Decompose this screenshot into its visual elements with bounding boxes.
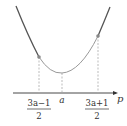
parabola-diagram: p 3a−1 2 a 3a+1 2 <box>0 0 127 126</box>
parabola-inner <box>39 36 98 73</box>
axis-label-p: p <box>117 93 124 104</box>
point-left <box>37 55 41 59</box>
point-right <box>96 34 100 38</box>
tick-left-denominator: 2 <box>36 111 41 121</box>
tick-right-denominator: 2 <box>94 111 99 121</box>
parabola-right-outer <box>98 7 110 36</box>
tick-left-numerator: 3a−1 <box>27 98 50 108</box>
tick-right-numerator: 3a+1 <box>85 98 108 108</box>
tick-vertex-label: a <box>59 95 64 105</box>
parabola-left-outer <box>16 6 39 57</box>
